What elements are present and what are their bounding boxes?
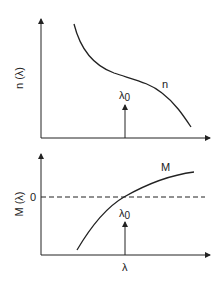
n-curve-label: n (162, 78, 168, 90)
top-lambda0-subscript: 0 (125, 92, 131, 103)
dispersion-diagram: n (λ) n λ0 M (λ) 0 M λ0 λ (0, 0, 221, 282)
top-lambda0-label: λ0 (119, 89, 131, 103)
bottom-y-label: M (λ) (13, 191, 25, 216)
bottom-lambda0-label: λ0 (119, 207, 131, 221)
m-curve (77, 172, 194, 250)
x-axis-label: λ (122, 261, 128, 273)
top-y-label: n (λ) (13, 67, 25, 89)
bottom-panel: M (λ) 0 M λ0 λ (13, 154, 210, 273)
bottom-lambda0-subscript: 0 (125, 210, 131, 221)
zero-tick-label: 0 (30, 191, 36, 203)
top-panel: n (λ) n λ0 (13, 19, 210, 138)
m-curve-label: M (161, 161, 170, 173)
n-curve (74, 24, 191, 127)
